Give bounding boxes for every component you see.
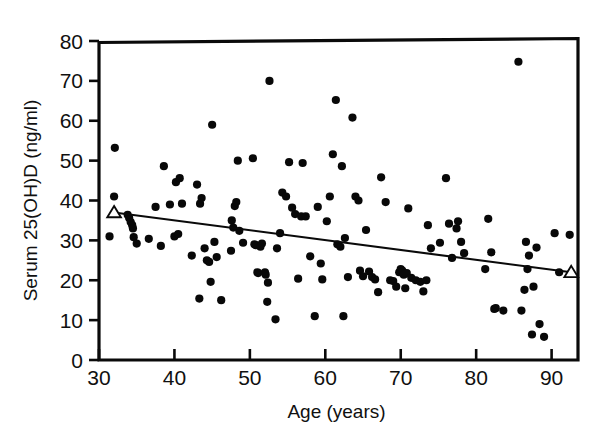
data-point (452, 224, 460, 232)
data-point (213, 253, 221, 261)
scatter-plot-figure: 0102030405060708030405060708090Age (year… (0, 0, 603, 434)
data-point (362, 226, 370, 234)
data-point (517, 306, 525, 314)
data-point (157, 242, 165, 250)
data-point (193, 180, 201, 188)
data-point (377, 173, 385, 181)
x-tick-label: 90 (540, 366, 563, 389)
y-axis-ticks: 01020304050607080 (60, 30, 99, 372)
data-point (111, 144, 119, 152)
y-tick-label: 10 (60, 309, 83, 332)
data-point (492, 304, 500, 312)
data-point (445, 220, 453, 228)
data-point (227, 247, 235, 255)
data-point (294, 275, 302, 283)
x-tick-label: 30 (87, 366, 110, 389)
x-tick-label: 70 (389, 366, 412, 389)
data-point (323, 217, 331, 225)
data-point (551, 229, 559, 237)
x-tick-label: 50 (238, 366, 261, 389)
y-tick-label: 50 (60, 149, 83, 172)
data-point (529, 283, 537, 291)
data-point (442, 174, 450, 182)
y-tick-label: 60 (60, 109, 83, 132)
data-point (166, 200, 174, 208)
data-point (436, 239, 444, 247)
data-point (520, 286, 528, 294)
data-point (195, 294, 203, 302)
y-tick-label: 0 (71, 349, 83, 372)
x-axis-title: Age (years) (287, 401, 385, 422)
data-point (427, 244, 435, 252)
data-point (208, 121, 216, 129)
data-point (110, 192, 118, 200)
data-point (374, 288, 382, 296)
data-point (566, 231, 574, 239)
data-point (344, 273, 352, 281)
data-point (535, 320, 543, 328)
data-point (484, 215, 492, 223)
data-point (176, 174, 184, 182)
data-point (262, 271, 270, 279)
data-point (460, 249, 468, 257)
data-point (201, 244, 209, 252)
data-point (306, 252, 314, 260)
data-point (481, 265, 489, 273)
data-point (329, 150, 337, 158)
data-point (318, 275, 326, 283)
data-point (457, 238, 465, 246)
data-point (528, 330, 536, 338)
data-point (332, 96, 340, 104)
data-point (404, 204, 412, 212)
data-point (197, 194, 205, 202)
data-point (265, 77, 273, 85)
data-point (258, 239, 266, 247)
y-axis-title: Serum 25(OH)D (ng/ml) (20, 100, 41, 302)
data-point (392, 283, 400, 291)
data-point (314, 203, 322, 211)
data-point (302, 212, 310, 220)
data-point (341, 234, 349, 242)
data-point (354, 196, 362, 204)
data-point (522, 238, 530, 246)
data-point (317, 259, 325, 267)
y-tick-label: 30 (60, 229, 83, 252)
data-point (174, 230, 182, 238)
data-point (371, 275, 379, 283)
data-point (422, 276, 430, 284)
data-point (217, 296, 225, 304)
y-tick-label: 40 (60, 189, 83, 212)
data-point (239, 239, 247, 247)
data-point (348, 113, 356, 121)
data-point (532, 243, 540, 251)
data-point (207, 278, 215, 286)
data-point (205, 258, 213, 266)
data-point (487, 248, 495, 256)
data-point (311, 312, 319, 320)
data-point (525, 251, 533, 259)
data-point (263, 298, 271, 306)
data-point (419, 287, 427, 295)
data-point (339, 312, 347, 320)
data-point (282, 192, 290, 200)
data-point (105, 232, 113, 240)
data-point (285, 158, 293, 166)
data-point (424, 221, 432, 229)
data-point (178, 200, 186, 208)
data-point (271, 315, 279, 323)
data-point (454, 217, 462, 225)
data-point (326, 192, 334, 200)
data-point (234, 157, 242, 165)
chart-canvas: 0102030405060708030405060708090Age (year… (0, 0, 603, 434)
data-point (264, 279, 272, 287)
data-point (232, 198, 240, 206)
y-tick-label: 80 (60, 30, 83, 53)
data-point (210, 238, 218, 246)
data-point (336, 243, 344, 251)
data-point (382, 198, 390, 206)
data-point (273, 244, 281, 252)
data-point (188, 251, 196, 259)
data-point (499, 306, 507, 314)
y-tick-label: 70 (60, 69, 83, 92)
data-point (401, 284, 409, 292)
